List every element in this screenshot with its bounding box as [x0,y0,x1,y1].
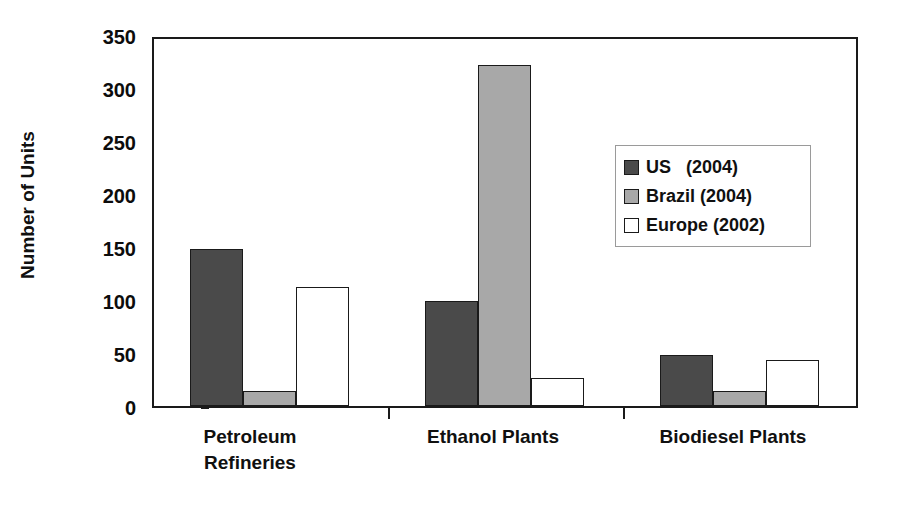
y-tick-label-350: 350 [103,26,136,49]
bar-ethanol-us[interactable] [425,301,478,406]
y-tick-label-0: 0 [125,397,136,420]
x-category-label-biodiesel: Biodiesel Plants [628,424,838,450]
bar-petroleum-brazil[interactable] [243,391,296,406]
legend-label-europe: Europe (2002) [646,215,765,236]
y-axis-tick-labels: 350 300 250 200 150 100 50 0 [56,0,142,522]
legend-swatch-us-icon [624,160,639,175]
legend-item-europe[interactable]: Europe (2002) [624,211,810,240]
y-tick-label-100: 100 [103,291,136,314]
bar-petroleum-us[interactable] [190,249,243,406]
legend: US (2004) Brazil (2004) Europe (2002) [615,145,811,247]
legend-swatch-brazil-icon [624,189,639,204]
legend-item-brazil[interactable]: Brazil (2004) [624,182,810,211]
legend-item-us[interactable]: US (2004) [624,153,810,182]
bar-biodiesel-us[interactable] [660,355,713,406]
bar-ethanol-europe[interactable] [531,378,584,406]
plot-area: US (2004) Brazil (2004) Europe (2002) [152,37,858,408]
bar-biodiesel-brazil[interactable] [713,391,766,406]
chart-page: Number of Units 350 300 250 200 150 100 … [0,0,902,522]
bar-biodiesel-europe[interactable] [766,360,819,406]
bar-ethanol-brazil[interactable] [478,65,531,406]
x-tick-mark-1 [388,408,390,419]
legend-label-brazil: Brazil (2004) [646,186,752,207]
y-tick-label-300: 300 [103,79,136,102]
x-category-label-ethanol: Ethanol Plants [398,424,588,450]
y-tick-label-50: 50 [114,344,136,367]
bar-group-petroleum [190,39,349,406]
y-axis-title: Number of Units [0,0,56,410]
y-tick-label-150: 150 [103,238,136,261]
x-category-label-petroleum: Petroleum Refineries [160,424,340,476]
y-axis-title-text: Number of Units [17,131,39,279]
bar-petroleum-europe[interactable] [296,287,349,406]
y-tick-label-200: 200 [103,185,136,208]
legend-label-us: US (2004) [646,157,738,178]
bar-group-ethanol [425,39,584,406]
y-tick-label-250: 250 [103,132,136,155]
x-tick-mark-2 [623,408,625,419]
plot-inner: US (2004) Brazil (2004) Europe (2002) [154,39,856,406]
legend-swatch-europe-icon [624,218,639,233]
